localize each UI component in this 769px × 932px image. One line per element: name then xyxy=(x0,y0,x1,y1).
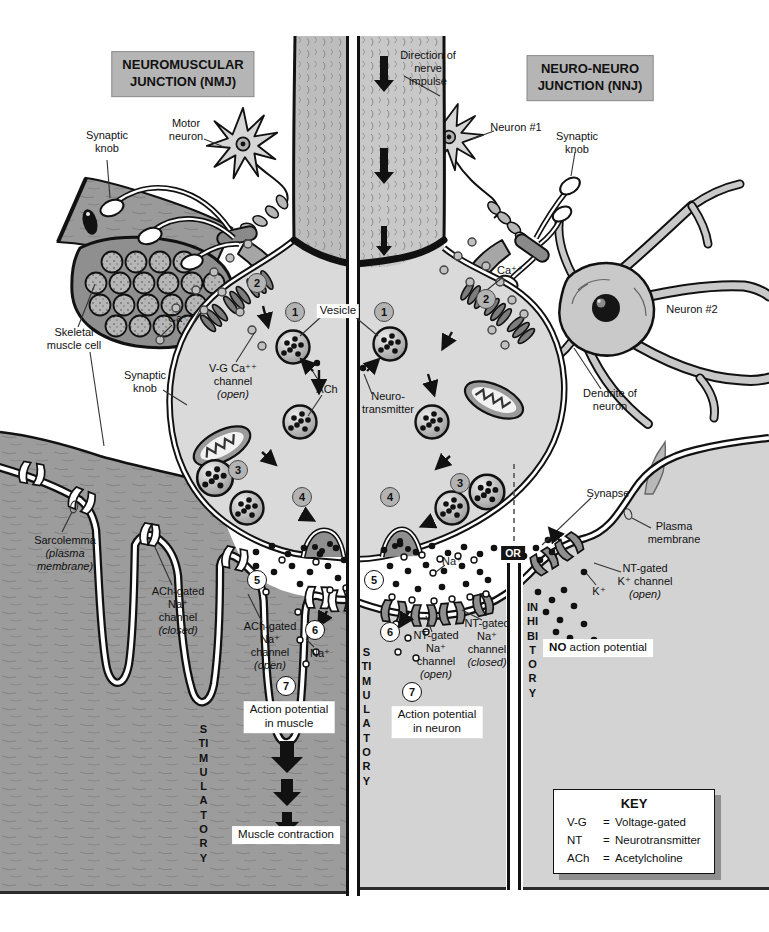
nmj-title: NEUROMUSCULAR JUNCTION (NMJ) xyxy=(111,51,254,97)
center-divider xyxy=(346,36,360,896)
action-potential-neuron-box: Action potential in neuron xyxy=(392,706,483,738)
step-7-right: 7 xyxy=(402,682,422,702)
step-7-left: 7 xyxy=(276,676,296,696)
stimulatory-right: STIMULATORY xyxy=(360,645,373,788)
or-badge: OR xyxy=(501,546,525,560)
channel-name: V-G Ca⁺⁺ channel xyxy=(209,362,257,387)
channel-state: (open) xyxy=(244,659,297,672)
key-row: ACh = Acetylcholine xyxy=(554,850,714,868)
no-bold: NO xyxy=(549,641,566,653)
channel-name: ACh-gated Na⁺ channel xyxy=(244,620,297,658)
label-ach: ACh xyxy=(316,383,337,396)
step-3-left: 3 xyxy=(228,460,248,480)
no-rest: action potential xyxy=(566,641,647,653)
label-k-ion: K⁺ xyxy=(592,585,605,598)
channel-state: (open) xyxy=(618,587,673,600)
key-legend: KEY V-G = Voltage-gated NT = Neurotransm… xyxy=(553,789,715,874)
label-nt-na-open: NT-gated Na⁺ channel (open) xyxy=(413,616,458,694)
step-3-right: 3 xyxy=(450,473,470,493)
label-direction-of-impulse: Direction of nerve impulse xyxy=(400,49,456,88)
key-separator: = xyxy=(603,832,615,850)
key-separator: = xyxy=(603,814,615,832)
structure-name: Sarcolemma xyxy=(34,534,96,546)
channel-state: (open) xyxy=(413,668,458,681)
label-neuron-1: Neuron #1 xyxy=(490,121,541,134)
channel-name: NT-gated Na⁺ channel xyxy=(464,617,509,655)
channel-name: ACh-gated Na⁺ channel xyxy=(152,585,205,623)
channel-name: NT-gated Na⁺ channel xyxy=(413,629,458,667)
label-neurotransmitter: Neuro- transmitter xyxy=(362,390,414,416)
key-abbr: ACh xyxy=(567,850,603,868)
key-abbr: NT xyxy=(567,832,603,850)
label-synaptic-knob-mid: Synaptic knob xyxy=(124,369,166,395)
channel-state: (closed) xyxy=(464,656,509,669)
label-sarcolemma: Sarcolemma (plasma membrane) xyxy=(34,521,96,586)
step-6-left: 6 xyxy=(305,620,325,640)
key-separator: = xyxy=(603,850,615,868)
key-title: KEY xyxy=(554,796,714,811)
vesicle xyxy=(436,492,469,525)
stimulatory-left: STIMULATORY xyxy=(197,722,210,865)
vesicle xyxy=(416,406,449,439)
vesicle xyxy=(374,328,407,361)
label-motor-neuron: Motor neuron xyxy=(169,117,203,143)
label-nt-na-closed: NT-gated Na⁺ channel (closed) xyxy=(464,604,509,682)
label-na-right: Na⁺ xyxy=(442,555,462,568)
key-meaning: Acetylcholine xyxy=(615,850,714,868)
channel-state: (closed) xyxy=(152,624,205,637)
inhibitory: INHIBITORY xyxy=(526,600,539,700)
structure-state: (plasma membrane) xyxy=(34,547,96,573)
step-2-left: 2 xyxy=(247,273,267,293)
label-plasma-membrane: Plasma membrane xyxy=(648,520,701,546)
figure-neuromuscular-vs-neuro-neuro-junction: NEUROMUSCULAR JUNCTION (NMJ) NEURO-NEURO… xyxy=(0,0,769,932)
key-row: NT = Neurotransmitter xyxy=(554,832,714,850)
label-vg-ca-channel: V-G Ca⁺⁺ channel (open) xyxy=(209,349,257,414)
label-neuron-2: Neuron #2 xyxy=(666,303,717,316)
key-meaning: Neurotransmitter xyxy=(615,832,714,850)
channel-state: (open) xyxy=(209,387,257,400)
step-5-right: 5 xyxy=(364,570,384,590)
label-skeletal-muscle-cell: Skeletal muscle cell xyxy=(47,326,101,352)
label-synaptic-knob-nnj: Synaptic knob xyxy=(556,130,598,156)
muscle-contraction-box: Muscle contraction xyxy=(232,826,340,844)
label-ach-na-closed: ACh-gated Na⁺ channel (closed) xyxy=(152,572,205,650)
step-5-left: 5 xyxy=(247,570,267,590)
label-nt-k-channel: NT-gated K⁺ channel (open) xyxy=(618,549,673,614)
step-1-left: 1 xyxy=(285,302,305,322)
step-6-right: 6 xyxy=(380,622,400,642)
channel-name: NT-gated K⁺ channel xyxy=(618,562,673,587)
action-potential-muscle-box: Action potential in muscle xyxy=(244,701,335,733)
vesicle xyxy=(197,460,233,496)
key-abbr: V-G xyxy=(567,814,603,832)
vesicle xyxy=(277,331,310,364)
no-action-potential-box: NO action potential xyxy=(543,639,653,657)
key-row: V-G = Voltage-gated xyxy=(554,814,714,832)
step-4-left: 4 xyxy=(292,487,312,507)
label-vesicle: Vesicle xyxy=(317,304,359,318)
label-ca-left: Ca⁺⁺ xyxy=(168,312,194,325)
nnj-title: NEURO-NEURO JUNCTION (NNJ) xyxy=(527,55,654,101)
label-synapse: Synapse xyxy=(587,487,630,500)
label-dendrite-of-neuron: Dendrite of neuron xyxy=(583,387,637,413)
neuron-2-nucleus xyxy=(592,294,620,322)
vesicle xyxy=(231,492,264,525)
label-synaptic-knob-nmj: Synaptic knob xyxy=(86,129,128,155)
label-na-left: Na⁺ xyxy=(310,647,330,660)
step-2-right: 2 xyxy=(476,289,496,309)
label-ca-right: Ca⁺⁺ xyxy=(497,264,523,277)
step-4-right: 4 xyxy=(380,487,400,507)
label-ach-na-open: ACh-gated Na⁺ channel (open) xyxy=(244,607,297,685)
key-meaning: Voltage-gated xyxy=(615,814,714,832)
step-1-right: 1 xyxy=(374,302,394,322)
